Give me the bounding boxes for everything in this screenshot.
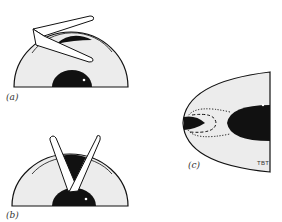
core-dot-c xyxy=(262,104,264,106)
panel-b xyxy=(12,136,128,207)
panel-label-a: (a) xyxy=(6,92,18,102)
panel-c xyxy=(183,72,270,172)
panel-label-b: (b) xyxy=(6,210,19,220)
artist-signature: TBT xyxy=(257,160,269,166)
hub-dot-a xyxy=(83,79,86,82)
panel-label-c: (c) xyxy=(188,160,200,170)
diagram-canvas xyxy=(0,0,282,222)
hub-dot-b xyxy=(85,198,88,201)
panel-a xyxy=(14,16,128,87)
